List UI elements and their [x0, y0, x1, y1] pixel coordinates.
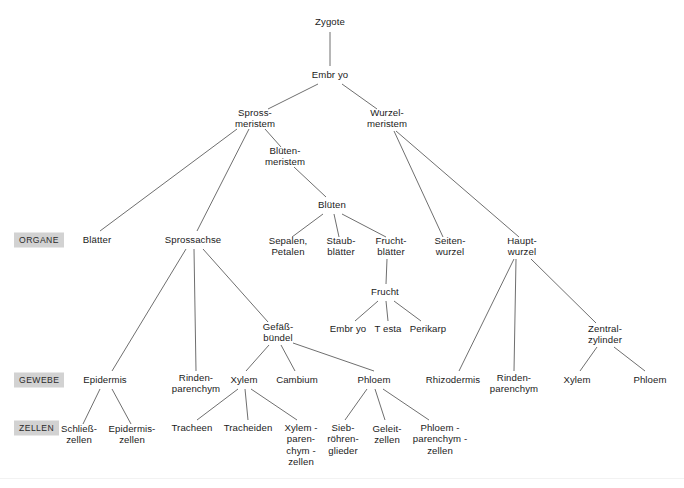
edge-sprossmeristem-to-sprossachse: [197, 129, 249, 231]
node-schliesszellen: Schließ- zellen: [61, 423, 97, 446]
edge-hauptwurzel-to-zentralzylinder: [531, 259, 596, 323]
node-tracheen: Tracheen: [172, 422, 213, 433]
node-hauptwurzel: Haupt- wurzel: [507, 235, 536, 258]
node-geleitzellen: Geleit- zellen: [373, 423, 402, 446]
node-perikarp: Perikarp: [410, 323, 447, 334]
node-blaetter: Blätter: [83, 234, 111, 245]
edge-sprossachse-to-gefaessbuendel: [203, 249, 268, 322]
edge-sprossachse-to-rindenparenchym_spross: [194, 249, 196, 371]
node-zygote: Zygote: [315, 16, 345, 27]
node-fruchtblaetter: Frucht- blätter: [375, 235, 406, 258]
tier-badge-gewebe: GEWEBE: [14, 373, 64, 388]
node-frucht: Frucht: [371, 286, 399, 297]
node-gefaessbuendel: Gefäß- bündel: [263, 321, 293, 344]
node-bluetenmeristem: Blüten- meristem: [265, 145, 305, 168]
edge-frucht-to-testa: [386, 301, 388, 321]
edge-phloem_spross-to-phloemparenchymzellen: [383, 389, 429, 420]
scan-artifact-line: [0, 478, 684, 479]
edge-xylem_spross-to-xylemparenchymzellen: [251, 389, 297, 420]
node-sprossmeristem: Spross- meristem: [235, 107, 275, 130]
tier-badge-zellen: ZELLEN: [14, 421, 59, 436]
node-rhizodermis: Rhizodermis: [426, 374, 480, 385]
node-wurzelmeristem: Wurzel- meristem: [367, 107, 407, 130]
node-blueten: Blüten: [318, 199, 346, 210]
edge-wurzelmeristem-to-seitenwurzel: [394, 131, 443, 237]
edge-sprossmeristem-to-blaetter: [100, 129, 237, 231]
edge-phloem_spross-to-geleitzellen: [375, 389, 385, 420]
edge-phloem_spross-to-siebroehrenglieder: [345, 389, 367, 420]
node-testa: T esta: [374, 323, 401, 334]
edge-wurzelmeristem-to-hauptwurzel: [396, 131, 519, 237]
edge-blueten-to-fruchtblaetter: [342, 214, 386, 237]
node-xylem_spross: Xylem: [230, 374, 257, 385]
edge-epidermis-to-schliesszellen: [83, 389, 100, 424]
node-phloemparenchymzellen: Phloem - parenchym - zellen: [413, 422, 467, 456]
node-sprossachse: Sprossachse: [165, 234, 222, 245]
edge-blueten-to-sepalen_petalen: [292, 214, 323, 237]
edge-hauptwurzel-to-rhizodermis: [459, 259, 514, 371]
edge-frucht-to-frucht_embryo: [355, 301, 378, 321]
tier-badge-organe: ORGANE: [14, 233, 64, 248]
node-rindenparenchym_spross: Rinden- parenchym: [172, 372, 220, 395]
node-staubblaetter: Staub- blätter: [327, 235, 356, 258]
node-sepalen_petalen: Sepalen, Petalen: [269, 235, 308, 258]
edge-zentralzylinder-to-xylem_wurzel: [580, 347, 597, 371]
node-seitenwurzel: Seiten- wurzel: [434, 235, 465, 258]
edge-sprossachse-to-epidermis: [112, 249, 186, 371]
node-siebroehrenglieder: Sieb- röhren- glieder: [327, 422, 359, 456]
edge-epidermis-to-epidermiszellen: [112, 389, 131, 424]
node-phloem_spross: Phloem: [357, 374, 390, 385]
node-epidermis: Epidermis: [83, 374, 127, 385]
node-phloem_wurzel: Phloem: [633, 374, 666, 385]
edge-embryo-to-sprossmeristem: [268, 84, 318, 109]
edge-gefaessbuendel-to-phloem_spross: [293, 343, 374, 371]
edge-gefaessbuendel-to-xylem_spross: [246, 345, 269, 371]
edge-blueten-to-staubblaetter: [334, 214, 339, 237]
node-embryo: Embr yo: [312, 69, 348, 80]
node-frucht_embryo: Embr yo: [330, 323, 366, 334]
edge-bluetenmeristem-to-blueten: [294, 167, 326, 197]
edge-hauptwurzel-to-rindenparenchym_wurzel: [514, 259, 516, 371]
diagram-canvas: ORGANEGEWEBEZELLEN ZygoteEmbr yoSpross- …: [0, 0, 684, 488]
edge-gefaessbuendel-to-cambium: [281, 345, 295, 371]
edge-embryo-to-wurzelmeristem: [342, 84, 377, 109]
edge-xylem_spross-to-tracheiden: [245, 389, 248, 420]
node-cambium: Cambium: [276, 374, 318, 385]
edge-frucht-to-perikarp: [394, 301, 421, 321]
edge-fruchtblaetter-to-frucht: [386, 259, 387, 284]
node-rindenparenchym_wurzel: Rinden- parenchym: [490, 372, 538, 395]
node-zentralzylinder: Zentral- zylinder: [588, 323, 622, 346]
edge-zentralzylinder-to-phloem_wurzel: [614, 347, 645, 371]
node-xylem_wurzel: Xylem: [563, 374, 590, 385]
node-xylemparenchymzellen: Xylem - paren- chym - zellen: [284, 422, 317, 468]
node-tracheiden: Tracheiden: [224, 422, 273, 433]
node-epidermiszellen: Epidermis- zellen: [109, 423, 156, 446]
